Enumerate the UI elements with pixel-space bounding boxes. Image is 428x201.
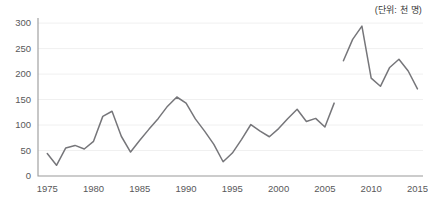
y-tick-label: 50 [20,145,31,156]
y-tick-label: 0 [26,170,31,181]
data-series [47,26,417,165]
x-tick-label: 2015 [407,183,428,194]
y-axis-tick-labels: 050100150200250300 [15,17,31,181]
series-line-1 [47,97,334,165]
x-tick-label: 2010 [361,183,382,194]
x-tick-label: 2000 [268,183,289,194]
y-tick-label: 200 [15,68,31,79]
y-tick-label: 300 [15,17,31,28]
x-tick-label: 1975 [37,183,58,194]
y-tick-label: 250 [15,43,31,54]
x-tick-label: 2005 [314,183,335,194]
series-line-2 [343,26,417,89]
x-tick-label: 1990 [176,183,197,194]
line-chart: (단위: 천 명) 050100150200250300 19751980198… [0,0,428,201]
y-tick-label: 100 [15,119,31,130]
y-tick-label: 150 [15,94,31,105]
x-axis-tick-labels: 197519801985199019952000200520102015 [37,183,428,194]
x-tick-label: 1980 [83,183,104,194]
x-tick-label: 1985 [129,183,150,194]
x-tick-label: 1995 [222,183,243,194]
chart-plot-area: 050100150200250300 197519801985199019952… [0,0,428,201]
